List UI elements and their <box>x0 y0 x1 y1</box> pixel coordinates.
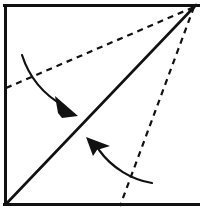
origami-diagram-root <box>0 0 200 215</box>
origami-diagram-svg <box>0 0 200 215</box>
